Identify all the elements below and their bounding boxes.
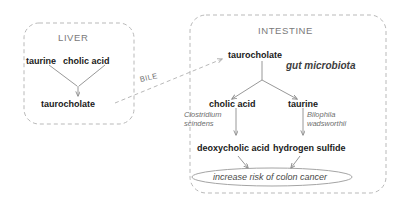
intestine-title: INTESTINE bbox=[258, 26, 313, 36]
pathway-diagram: LIVER taurine cholic acid taurocholate B… bbox=[0, 0, 396, 207]
arrow-to-taurine bbox=[262, 80, 297, 99]
intestine-node-deoxycholic-acid: deoxycholic acid bbox=[197, 144, 270, 153]
liver-node-taurine: taurine bbox=[26, 57, 56, 66]
arrow-deoxycholic-acid-to-outcome bbox=[238, 156, 248, 168]
intestine-node-taurine: taurine bbox=[288, 100, 318, 109]
organism-clostridium-scindens: Clostridium scindens bbox=[184, 110, 232, 129]
intestine-node-gut-microbiota: gut microbiota bbox=[286, 61, 355, 71]
outcome-label: increase risk of colon cancer bbox=[213, 173, 327, 182]
intestine-node-cholic-acid: cholic acid bbox=[209, 100, 256, 109]
arrow-taurine-to-taurocholate bbox=[49, 65, 77, 86]
arrow-hydrogen-sulfide-to-outcome bbox=[291, 156, 300, 168]
intestine-node-taurocholate: taurocholate bbox=[228, 51, 282, 60]
arrow-to-cholic-acid bbox=[232, 80, 262, 99]
liver-node-taurocholate: taurocholate bbox=[41, 100, 95, 109]
liver-title: LIVER bbox=[58, 33, 88, 43]
intestine-node-hydrogen-sulfide: hydrogen sulfide bbox=[273, 144, 346, 153]
arrow-cholic-acid-to-taurocholate bbox=[79, 65, 105, 86]
organism-bilophila-wadsworthii: Bilophila wadsworthii bbox=[307, 110, 359, 129]
bile-transport-arrow bbox=[115, 59, 222, 103]
liver-node-cholic-acid: cholic acid bbox=[63, 57, 110, 66]
